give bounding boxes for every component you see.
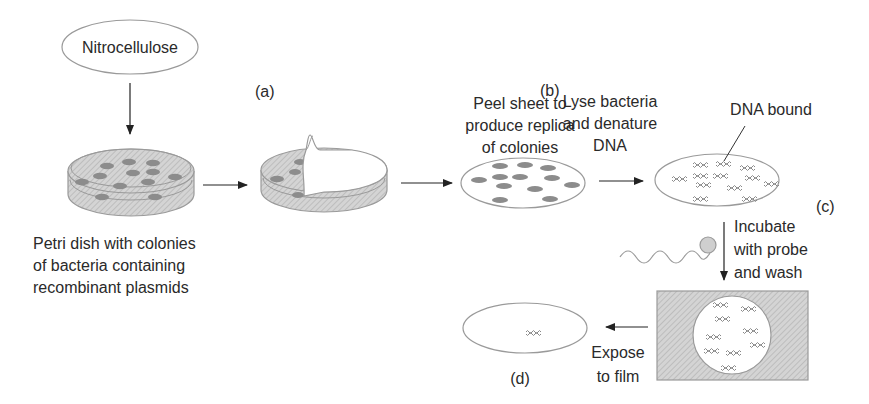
lyse-caption-line1: Lyse bacteria [563,93,658,110]
peel-caption-line2: produce replica [465,117,575,134]
lyse-caption-line3: DNA [593,137,627,154]
colony-hybridization-diagram: Nitrocellulose Petri dish with colonies … [0,0,869,404]
petri-caption-line2: of bacteria containing [33,257,185,274]
incubate-caption-line2: with probe [733,241,808,258]
probe-icon [620,237,716,263]
step-label-c: (c) [816,198,835,215]
nitrocellulose-label: Nitrocellulose [82,39,178,56]
incubate-caption-line3: and wash [734,264,803,281]
replica-sheet [461,158,585,208]
petri-dish-peeling [261,135,387,212]
lyse-caption-line2: and denature [563,115,657,132]
developed-film [463,303,587,353]
petri-dish-colonies [68,149,194,216]
step-label-d: (d) [510,370,530,387]
dna-bound-label: DNA bound [730,101,812,118]
incubate-caption-line1: Incubate [734,218,795,235]
expose-caption-line2: to film [597,368,640,385]
step-label-b: (b) [540,82,560,99]
petri-caption-line1: Petri dish with colonies [33,235,196,252]
nitrocellulose-node: Nitrocellulose [62,20,198,74]
dna-bound-sheet [655,154,779,206]
peel-caption-line3: of colonies [482,139,559,156]
film-with-membrane [657,291,808,380]
petri-caption-line3: recombinant plasmids [33,279,189,296]
step-label-a: (a) [255,83,275,100]
expose-caption-line1: Expose [591,344,644,361]
